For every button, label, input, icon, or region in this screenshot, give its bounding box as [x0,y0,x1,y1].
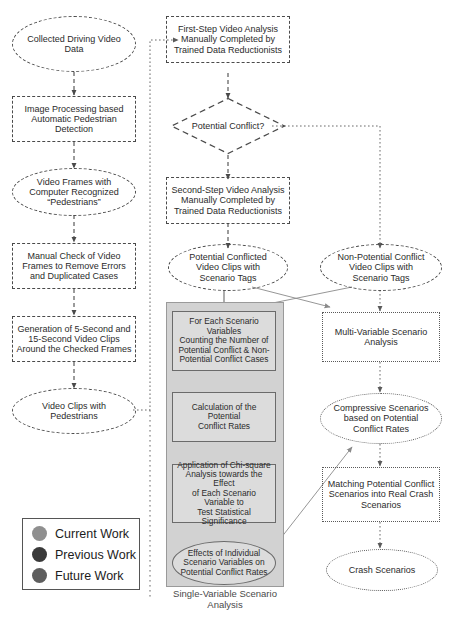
node-label: Multi-Variable Scenario Analysis [332,327,430,347]
node-label: Generation of 5-Second and 15-Second Vid… [13,324,134,354]
legend-label-current-work: Current Work [55,527,129,541]
node-label: Potential Conflict? [192,121,265,131]
node-calculation-rates[interactable]: Calculation of the Potential Conflict Ra… [172,392,276,442]
node-label: Manual Check of Video Frames to Remove E… [19,251,129,281]
node-video-clips-pedestrians[interactable]: Video Clips with Pedestrians [12,388,136,434]
node-effects-individual[interactable]: Effects of Individual Scenario Variables… [172,541,276,585]
node-label: Video Clips with Pedestrians [39,401,109,421]
node-video-frames-recognized[interactable]: Video Frames with Computer Recognized “P… [12,168,136,216]
group-caption: Single-Variable Scenario Analysis [166,588,284,610]
node-first-step-analysis[interactable]: First-Step Video Analysis Manually Compl… [166,16,290,63]
node-non-potential-conflict-clips[interactable]: Non-Potential Conflict Video Clips with … [320,244,442,291]
node-second-step-analysis[interactable]: Second-Step Video Analysis Manually Comp… [166,177,290,224]
node-label: Calculation of the Potential Conflict Ra… [173,403,275,431]
node-chi-square-analysis[interactable]: Application of Chi-square Analysis towar… [172,464,276,523]
node-label: Matching Potential Conflict Scenarios in… [325,479,438,509]
group-caption-label: Single-Variable Scenario Analysis [173,588,277,610]
node-label: Compressive Scenarios based on Potential… [330,403,431,433]
node-crash-scenarios[interactable]: Crash Scenarios [326,549,438,591]
legend-label-previous-work: Previous Work [55,548,136,562]
legend-swatch-future-work [32,568,47,583]
legend-label-future-work: Future Work [55,569,124,583]
node-manual-check[interactable]: Manual Check of Video Frames to Remove E… [12,243,136,289]
node-label: Image Processing based Automatic Pedestr… [21,104,126,134]
node-label: For Each Scenario Variables Counting the… [173,317,275,364]
legend-swatch-current-work [32,526,47,541]
node-potential-conflict-decision[interactable]: Potential Conflict? [170,97,286,155]
legend: Current Work Previous Work Future Work [22,518,140,590]
node-compressive-scenarios[interactable]: Compressive Scenarios based on Potential… [320,393,442,444]
flowchart-canvas: Collected Driving Video Data Image Proce… [0,0,458,636]
node-image-processing[interactable]: Image Processing based Automatic Pedestr… [12,96,136,142]
node-label: Potential Conflicted Video Clips with Sc… [186,252,270,282]
node-potential-conflicted-clips[interactable]: Potential Conflicted Video Clips with Sc… [168,244,288,291]
node-label: Application of Chi-square Analysis towar… [173,461,275,527]
node-label: Second-Step Video Analysis Manually Comp… [169,185,288,215]
node-label: First-Step Video Analysis Manually Compl… [171,24,285,54]
node-generation-clips[interactable]: Generation of 5-Second and 15-Second Vid… [12,316,136,362]
node-label: Video Frames with Computer Recognized “P… [26,177,122,207]
legend-item-current-work[interactable]: Current Work [23,523,139,544]
node-label: Collected Driving Video Data [24,34,123,54]
node-label: Effects of Individual Scenario Variables… [177,549,270,577]
legend-item-previous-work[interactable]: Previous Work [23,544,139,565]
node-collected-driving-video-data[interactable]: Collected Driving Video Data [12,16,136,72]
legend-item-future-work[interactable]: Future Work [23,565,139,586]
legend-swatch-previous-work [32,547,47,562]
node-label: Non-Potential Conflict Video Clips with … [334,252,427,282]
node-multi-variable-analysis[interactable]: Multi-Variable Scenario Analysis [322,312,440,362]
node-counting-cases[interactable]: For Each Scenario Variables Counting the… [172,311,276,371]
node-label: Crash Scenarios [346,565,419,575]
node-matching-scenarios[interactable]: Matching Potential Conflict Scenarios in… [322,467,440,522]
